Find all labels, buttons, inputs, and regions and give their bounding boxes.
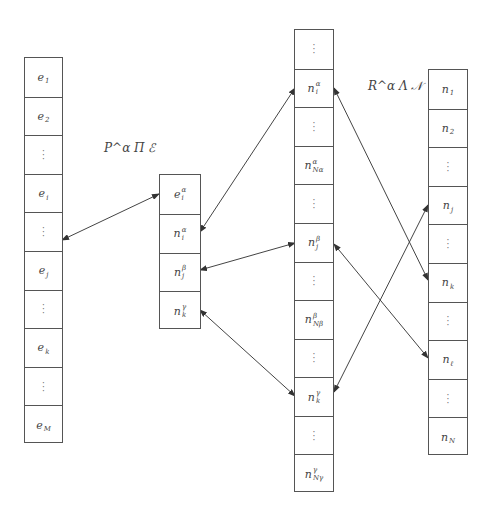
cell-subscript: k	[316, 397, 320, 405]
cell-superscript	[45, 340, 49, 348]
cell-superscript	[46, 263, 48, 271]
cell-symbol: n	[174, 227, 181, 240]
element-cell: n 1	[429, 70, 467, 109]
cell-symbol: n	[442, 83, 449, 96]
cell-symbol: n	[442, 353, 449, 366]
cell-subscript: 2	[450, 128, 454, 136]
element-cell: e 2	[25, 97, 62, 136]
column-E: e 1e 2···e i···e j···e k···e M	[24, 57, 63, 443]
cell-symbol: n	[308, 391, 315, 404]
arrows-layer	[0, 0, 491, 514]
cell-indices: βNβ	[313, 312, 323, 328]
cell-superscript	[451, 352, 454, 360]
vertical-ellipsis: ···	[313, 121, 316, 133]
cell-subscript: i	[182, 234, 187, 242]
cell-indices: βj	[316, 235, 320, 251]
cell-superscript	[45, 69, 49, 77]
element-cell: e k	[25, 328, 62, 367]
vertical-ellipsis: ···	[313, 352, 316, 364]
element-cell: n ℓ	[429, 340, 467, 379]
element-cell: n 2	[429, 109, 467, 148]
vertical-ellipsis: ···	[447, 238, 450, 250]
cell-superscript	[449, 429, 455, 437]
column-R: ···nαi···nαNα···nβj···nβNβ···nγk···nγNγ	[294, 29, 334, 492]
cell-superscript: α	[313, 158, 324, 166]
cell-indices: αNα	[313, 158, 324, 174]
cell-superscript: γ	[313, 466, 323, 474]
cell-subscript: 1	[450, 89, 454, 97]
cell-symbol: n	[441, 431, 448, 444]
cell-symbol: e	[38, 71, 45, 84]
ellipsis-cell: ···	[295, 262, 333, 301]
cell-subscript: j	[182, 272, 186, 280]
double-arrow	[200, 243, 295, 270]
column-P: eαinαinβjnγk	[159, 174, 201, 329]
cell-subscript: j	[316, 243, 320, 251]
cell-subscript: Nγ	[313, 474, 323, 482]
ellipsis-cell: ···	[295, 30, 333, 69]
cell-superscript	[45, 108, 49, 116]
cell-symbol: n	[174, 305, 181, 318]
cell-indices: i	[46, 186, 48, 202]
cell-indices: 1	[45, 69, 49, 85]
vertical-ellipsis: ···	[447, 315, 450, 327]
cell-subscript: j	[46, 271, 48, 279]
cell-subscript: k	[182, 311, 186, 319]
cell-superscript	[46, 186, 48, 194]
cell-superscript: β	[316, 235, 320, 243]
vertical-ellipsis: ···	[42, 149, 45, 161]
cell-subscript: 1	[45, 77, 49, 85]
cell-subscript: k	[450, 283, 454, 291]
cell-symbol: n	[308, 236, 315, 249]
double-arrow	[200, 310, 295, 396]
cell-superscript: α	[182, 226, 187, 234]
ellipsis-cell: ···	[429, 379, 467, 418]
element-cell: n N	[429, 417, 467, 456]
cell-subscript: ℓ	[451, 360, 454, 368]
cell-symbol: n	[305, 313, 312, 326]
element-cell: nαi	[160, 214, 200, 253]
cell-symbol: e	[174, 188, 181, 201]
ellipsis-cell: ···	[25, 135, 62, 174]
cell-superscript: α	[181, 186, 186, 194]
cell-superscript: α	[316, 80, 321, 88]
double-arrow	[200, 88, 295, 232]
element-cell: n j	[429, 186, 467, 225]
double-arrow	[62, 194, 159, 240]
cell-symbol: n	[442, 276, 449, 289]
cell-indices: j	[451, 198, 453, 214]
cell-symbol: e	[36, 419, 43, 432]
double-arrow	[334, 205, 428, 392]
cell-subscript: k	[45, 348, 49, 356]
vertical-ellipsis: ···	[42, 381, 45, 393]
cell-indices: ℓ	[451, 352, 454, 368]
cell-superscript: γ	[316, 389, 320, 397]
cell-indices: k	[450, 275, 454, 291]
cell-indices: αi	[182, 226, 187, 242]
element-cell: nβNβ	[295, 300, 333, 339]
left-relation-label: P^α Π ℰ	[104, 141, 155, 155]
left-relation-text: P^α Π ℰ	[104, 141, 155, 155]
arrow-group	[62, 88, 428, 396]
ellipsis-cell: ···	[295, 416, 333, 455]
vertical-ellipsis: ···	[447, 161, 450, 173]
cell-subscript: Nβ	[313, 320, 323, 328]
ellipsis-cell: ···	[295, 184, 333, 223]
cell-subscript: 2	[45, 116, 49, 124]
element-cell: e 1	[25, 58, 62, 97]
vertical-ellipsis: ···	[313, 430, 316, 442]
cell-superscript	[451, 198, 453, 206]
cell-indices: γk	[316, 389, 320, 405]
element-cell: nαNα	[295, 146, 333, 185]
cell-indices: γk	[182, 303, 186, 319]
cell-symbol: n	[308, 82, 315, 95]
cell-subscript: i	[46, 194, 48, 202]
element-cell: nγk	[295, 377, 333, 416]
cell-superscript	[450, 275, 454, 283]
right-relation-label: R^α Λ 𝒩	[368, 79, 423, 93]
ellipsis-cell: ···	[25, 290, 62, 329]
cell-superscript: γ	[182, 303, 186, 311]
cell-indices: βj	[182, 264, 186, 280]
ellipsis-cell: ···	[429, 147, 467, 186]
vertical-ellipsis: ···	[313, 198, 316, 210]
